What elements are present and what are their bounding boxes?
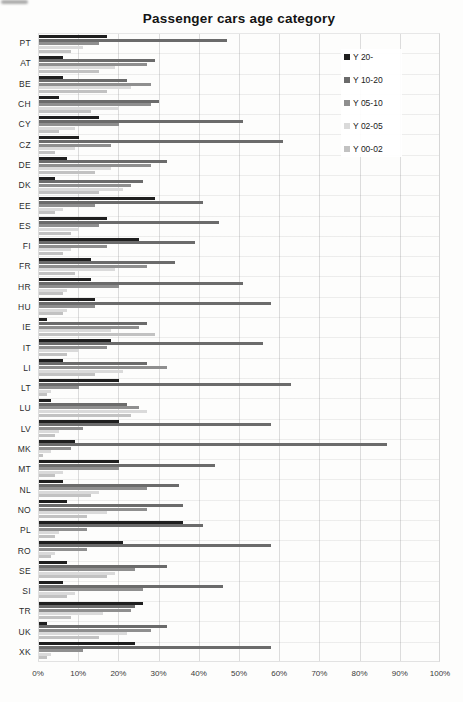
y-axis-label-si: SI xyxy=(0,581,31,601)
x-axis-tick-label: 80% xyxy=(352,669,368,678)
bar-uk-y10-20 xyxy=(39,625,167,628)
bar-es-y20- xyxy=(39,217,107,220)
bar-fi-y00-02 xyxy=(39,252,63,255)
bar-mt-y05-10 xyxy=(39,467,119,470)
legend-item-label: Y 20- xyxy=(353,52,373,62)
bar-ie-y20- xyxy=(39,318,47,321)
bar-ch-y10-20 xyxy=(39,100,159,103)
y-axis-label-pt: PT xyxy=(0,33,31,53)
bar-pt-y02-05 xyxy=(39,46,83,49)
y-axis-label-uk: UK xyxy=(0,622,31,642)
x-axis-tick-label: 30% xyxy=(151,669,167,678)
bar-cz-y02-05 xyxy=(39,147,75,150)
bar-lv-y10-20 xyxy=(39,423,271,426)
y-axis-label-hu: HU xyxy=(0,297,31,317)
bar-mt-y00-02 xyxy=(39,474,55,477)
bar-li-y20- xyxy=(39,359,63,362)
x-axis-tick-label: 0% xyxy=(32,669,44,678)
legend-swatch xyxy=(344,146,350,152)
x-axis-tick-label: 50% xyxy=(231,669,247,678)
category-group-pl xyxy=(39,519,439,539)
bar-cy-y05-10 xyxy=(39,123,119,126)
category-group-mk xyxy=(39,438,439,458)
category-group-no xyxy=(39,499,439,519)
bar-ch-y02-05 xyxy=(39,107,119,110)
y-axis-label-nl: NL xyxy=(0,480,31,500)
chart-title: Passenger cars age category xyxy=(38,11,440,26)
bar-no-y02-05 xyxy=(39,511,107,514)
bar-si-y02-05 xyxy=(39,592,75,595)
legend-swatch xyxy=(344,100,350,106)
bar-it-y05-10 xyxy=(39,346,107,349)
bar-es-y02-05 xyxy=(39,228,79,231)
bar-mt-y10-20 xyxy=(39,464,215,467)
bar-se-y02-05 xyxy=(39,572,115,575)
bar-ro-y00-02 xyxy=(39,555,51,558)
y-axis-label-fi: FI xyxy=(0,236,31,256)
bar-fi-y02-05 xyxy=(39,248,71,251)
category-group-li xyxy=(39,358,439,378)
bar-hr-y20- xyxy=(39,278,91,281)
y-axis-label-xk: XK xyxy=(0,642,31,662)
category-group-xk xyxy=(39,641,439,661)
bar-mt-y20- xyxy=(39,460,119,463)
bar-se-y20- xyxy=(39,561,67,564)
bar-xk-y02-05 xyxy=(39,653,51,656)
x-axis-tick-label: 20% xyxy=(110,669,126,678)
bar-pl-y05-10 xyxy=(39,528,87,531)
category-group-ie xyxy=(39,317,439,337)
bar-lu-y20- xyxy=(39,399,51,402)
bar-es-y10-20 xyxy=(39,221,219,224)
bar-ro-y05-10 xyxy=(39,548,87,551)
bar-lu-y10-20 xyxy=(39,403,127,406)
bar-mk-y02-05 xyxy=(39,450,51,453)
bar-mk-y00-02 xyxy=(39,454,43,457)
category-group-ro xyxy=(39,539,439,559)
bar-lt-y02-05 xyxy=(39,390,51,393)
bar-tr-y10-20 xyxy=(39,605,135,608)
bar-fr-y00-02 xyxy=(39,272,75,275)
bar-it-y10-20 xyxy=(39,342,263,345)
bar-de-y10-20 xyxy=(39,160,167,163)
bar-es-y00-02 xyxy=(39,232,71,235)
bar-ie-y10-20 xyxy=(39,322,147,325)
bar-nl-y02-05 xyxy=(39,491,99,494)
y-axis-label-hr: HR xyxy=(0,277,31,297)
bar-lu-y05-10 xyxy=(39,406,139,409)
y-axis-label-ch: CH xyxy=(0,94,31,114)
category-group-de xyxy=(39,155,439,175)
category-group-se xyxy=(39,560,439,580)
category-group-dk xyxy=(39,176,439,196)
bar-it-y00-02 xyxy=(39,353,67,356)
legend-item: Y 00-02 xyxy=(344,144,402,154)
bar-si-y00-02 xyxy=(39,595,67,598)
bar-cz-y00-02 xyxy=(39,151,55,154)
bar-ee-y02-05 xyxy=(39,208,63,211)
y-axis-label-es: ES xyxy=(0,216,31,236)
bar-si-y20- xyxy=(39,581,63,584)
y-axis-label-cy: CY xyxy=(0,114,31,134)
bar-mk-y10-20 xyxy=(39,443,387,446)
bar-lv-y20- xyxy=(39,420,119,423)
bar-lu-y00-02 xyxy=(39,414,131,417)
bar-no-y05-10 xyxy=(39,508,147,511)
bar-fi-y10-20 xyxy=(39,241,195,244)
category-group-es xyxy=(39,216,439,236)
bar-uk-y05-10 xyxy=(39,629,151,632)
bar-fi-y05-10 xyxy=(39,245,107,248)
bar-xk-y00-02 xyxy=(39,656,47,659)
bar-de-y20- xyxy=(39,157,67,160)
bar-hr-y00-02 xyxy=(39,292,63,295)
y-axis-label-tr: TR xyxy=(0,601,31,621)
bar-lv-y05-10 xyxy=(39,427,83,430)
y-axis-label-lt: LT xyxy=(0,378,31,398)
bar-si-y05-10 xyxy=(39,588,143,591)
legend-item: Y 05-10 xyxy=(344,98,402,108)
bar-lu-y02-05 xyxy=(39,410,147,413)
category-group-fr xyxy=(39,256,439,276)
bar-uk-y02-05 xyxy=(39,632,127,635)
bar-no-y00-02 xyxy=(39,515,87,518)
x-axis: 0%10%20%30%40%50%60%70%80%90%100% xyxy=(38,669,440,685)
bar-lt-y05-10 xyxy=(39,386,79,389)
bar-it-y20- xyxy=(39,339,111,342)
